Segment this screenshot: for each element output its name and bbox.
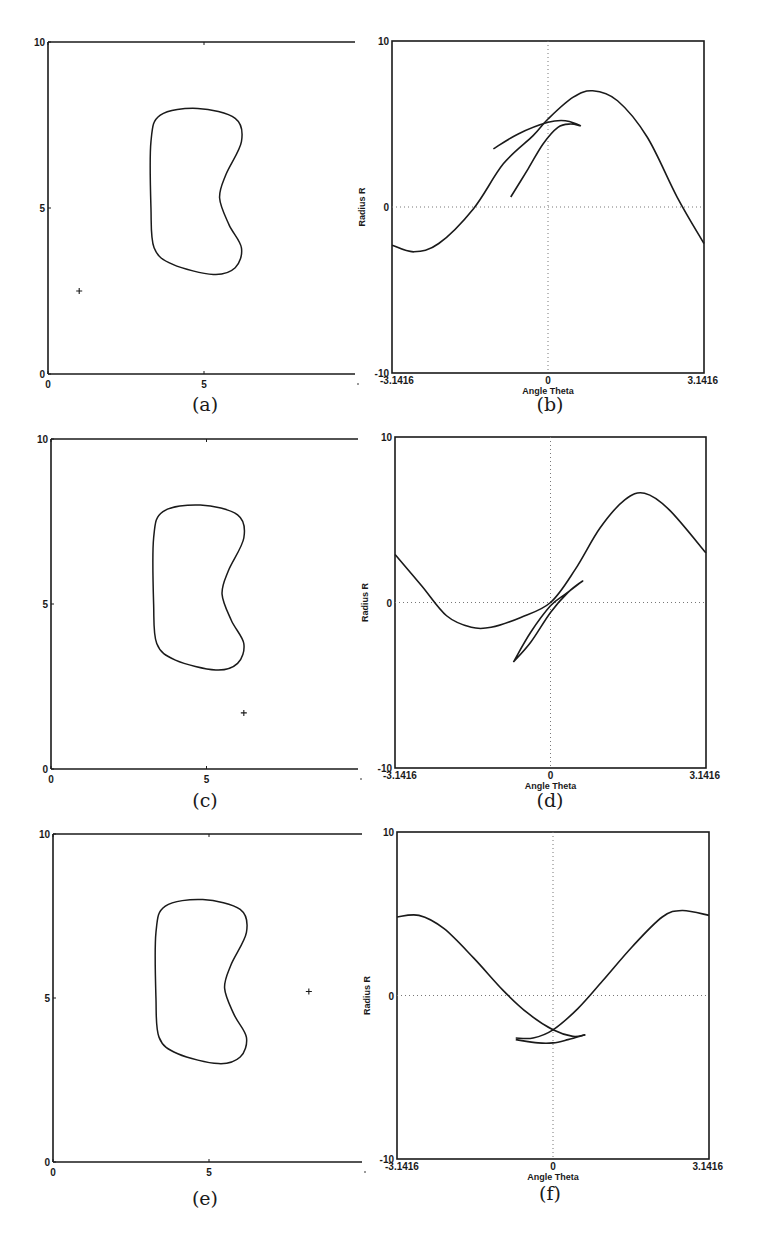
y-tick-label: 10 [383, 827, 395, 838]
y-axis-label: Radius R [362, 976, 372, 1016]
panel-caption: (c) [192, 789, 217, 811]
y-tick-label: 0 [383, 202, 389, 213]
panel-f: 100-10-3.141603.1416Angle ThetaRadius R(… [362, 827, 723, 1204]
x-axis-label: Angle Theta [527, 1172, 579, 1182]
y-tick-label: 10 [381, 432, 393, 443]
point-marker-icon [306, 988, 312, 994]
x-tick-label: 5 [201, 379, 207, 390]
x-tick-label: 0 [45, 379, 51, 390]
dot-mark [364, 1171, 366, 1173]
y-tick-label: 10 [39, 829, 51, 840]
panel-caption: (f) [539, 1182, 561, 1204]
y-axis-label: Radius R [360, 583, 370, 623]
panel-caption: (d) [537, 789, 564, 811]
cspace-curve [513, 581, 582, 662]
cspace-curve [516, 910, 709, 1038]
x-tick-label: 0 [50, 1167, 56, 1178]
dot-mark [357, 383, 359, 385]
point-marker-icon [76, 288, 82, 294]
x-tick-label: 3.1416 [687, 375, 718, 386]
point-marker-icon [241, 710, 247, 716]
x-tick-label: 5 [204, 774, 210, 785]
x-tick-label: 0 [545, 375, 551, 386]
dot-mark [360, 778, 362, 780]
y-tick-label: 5 [39, 203, 45, 214]
y-tick-label: 0 [388, 991, 394, 1002]
panel-d: 100-10-3.141603.1416Angle ThetaRadius R(… [360, 432, 720, 811]
panel-c: 051005(c) [37, 434, 362, 811]
figure: 051005(a)100-10-3.141603.1416Angle Theta… [0, 0, 757, 1243]
obstacle-outline [155, 900, 247, 1064]
panel-caption: (e) [192, 1187, 218, 1209]
panel-e: 051005(e) [39, 829, 366, 1209]
x-tick-label: -3.1416 [385, 1161, 419, 1172]
cspace-curve [397, 915, 585, 1037]
panel-caption: (b) [537, 393, 564, 415]
panel-a: 051005(a) [34, 37, 359, 415]
y-tick-label: 5 [42, 599, 48, 610]
cspace-curve [392, 91, 704, 252]
x-tick-label: 3.1416 [689, 770, 720, 781]
x-tick-label: 0 [550, 1161, 556, 1172]
x-tick-label: 0 [548, 770, 554, 781]
x-tick-label: 0 [48, 774, 54, 785]
y-tick-label: 10 [378, 36, 390, 47]
x-tick-label: -3.1416 [383, 770, 417, 781]
y-axis-label: Radius R [357, 187, 367, 227]
panel-b: 100-10-3.141603.1416Angle ThetaRadius R(… [357, 36, 718, 415]
obstacle-outline [150, 108, 242, 274]
y-tick-label: 10 [34, 37, 46, 48]
y-tick-label: 10 [37, 434, 49, 445]
x-tick-label: 5 [206, 1167, 212, 1178]
y-tick-label: 5 [44, 993, 50, 1004]
panel-caption: (a) [192, 393, 218, 415]
x-tick-label: 3.1416 [692, 1161, 723, 1172]
x-tick-label: -3.1416 [380, 375, 414, 386]
obstacle-outline [153, 505, 245, 670]
y-tick-label: 0 [386, 598, 392, 609]
